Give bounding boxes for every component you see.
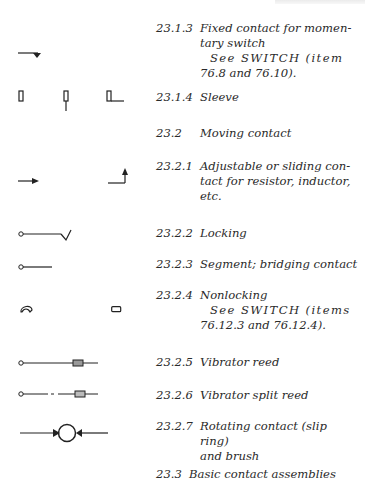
nonlocking-rect-icon — [111, 306, 123, 314]
entry-23-2-5: 23.2.5 Vibrator reed — [156, 355, 358, 370]
sleeve-with-lead-icon — [63, 90, 71, 112]
entry-number: 23.2.1 — [156, 159, 193, 174]
see-reference: See SWITCH (items — [200, 303, 358, 318]
see-reference: See SWITCH (item — [200, 51, 358, 66]
entry-title: Locking — [200, 226, 247, 240]
entry-title: Rotating contact (slip ring) — [200, 419, 358, 449]
entry-23-2-7: 23.2.7 Rotating contact (slip ring) and … — [156, 419, 358, 464]
entry-title-cont: tary switch — [200, 36, 358, 51]
arrow-right-icon — [18, 177, 42, 185]
entry-number: 23.2.5 — [156, 355, 193, 370]
nonlocking-curved-icon — [20, 304, 34, 314]
entry-title-cont: and brush — [200, 449, 358, 464]
entry-number: 23.1.4 — [156, 90, 193, 105]
entry-23-2: 23.2 Moving contact — [156, 126, 358, 141]
entry-23-2-3: 23.2.3 Segment; bridging contact — [156, 257, 358, 272]
see-reference-cont: 76.8 and 76.10). — [200, 66, 358, 81]
locking-contact-icon — [18, 228, 73, 244]
running-header-cropped — [275, 0, 365, 4]
entry-title: Basic contact assemblies — [189, 467, 336, 481]
entry-23-2-2: 23.2.2 Locking — [156, 226, 358, 241]
entry-title-cont: etc. — [200, 189, 358, 204]
entry-title: Fixed contact for momen- — [200, 21, 358, 36]
entry-number: 23.3 — [156, 467, 182, 482]
entry-number: 23.2.2 — [156, 226, 193, 241]
entry-title: Moving contact — [200, 126, 291, 140]
entry-number: 23.1.3 — [156, 21, 193, 36]
entry-23-2-6: 23.2.6 Vibrator split reed — [156, 388, 358, 403]
see-reference-cont: 76.12.3 and 76.12.4). — [200, 318, 358, 333]
slip-ring-brush-icon — [20, 421, 110, 445]
entry-23-1-4: 23.1.4 Sleeve — [156, 90, 358, 105]
sleeve-with-side-lead-icon — [106, 90, 126, 104]
entry-title: Adjustable or sliding con- — [200, 159, 358, 174]
segment-contact-icon — [18, 263, 54, 273]
entry-number: 23.2.4 — [156, 288, 193, 303]
entry-23-2-1: 23.2.1 Adjustable or sliding con- tact f… — [156, 159, 358, 204]
entry-number: 23.2 — [156, 126, 182, 141]
fixed-contact-momentary-icon — [18, 50, 48, 60]
entry-title: Vibrator reed — [200, 355, 279, 369]
entry-title: Nonlocking — [200, 288, 267, 302]
entry-title: Vibrator split reed — [200, 388, 308, 402]
entry-title-cont: tact for resistor, inductor, — [200, 174, 358, 189]
entry-title: Segment; bridging contact — [200, 257, 357, 271]
entry-number: 23.2.3 — [156, 257, 193, 272]
entry-number: 23.2.6 — [156, 388, 193, 403]
entry-23-1-3: 23.1.3 Fixed contact for momen- tary swi… — [156, 21, 358, 81]
entry-number: 23.2.7 — [156, 419, 193, 434]
entry-23-3: 23.3 Basic contact assemblies — [156, 467, 358, 482]
vibrator-split-reed-icon — [18, 390, 100, 400]
entry-title: Sleeve — [200, 90, 239, 104]
vibrator-reed-icon — [18, 359, 100, 369]
entry-23-2-4: 23.2.4 Nonlocking See SWITCH (items 76.1… — [156, 288, 358, 333]
sleeve-icon — [18, 90, 26, 104]
arrow-up-corner-icon — [108, 168, 128, 186]
